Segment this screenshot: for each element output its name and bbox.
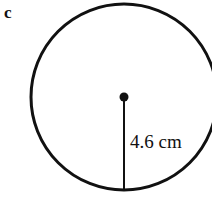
radius-measurement-label: 4.6 cm bbox=[130, 131, 182, 153]
circle-diagram-canvas bbox=[0, 0, 212, 211]
part-label: c bbox=[4, 3, 12, 22]
center-point-dot bbox=[120, 93, 129, 102]
circle-diagram-figure: c 4.6 cm bbox=[0, 0, 212, 211]
